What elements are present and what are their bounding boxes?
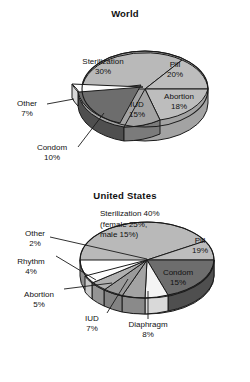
us-label-diaphragm: Diaphragm 8% xyxy=(114,320,182,339)
world-label-condom: Condom 10% xyxy=(26,143,78,162)
world-label-iud-name: IUD xyxy=(130,100,144,109)
us-label-rhythm-name: Rhythm xyxy=(17,257,45,266)
world-label-other-name: Other xyxy=(17,99,37,108)
world-label-pill: Pill 20% xyxy=(155,60,195,79)
world-label-abortion-name: Abortion xyxy=(164,92,194,101)
us-label-pill-name: Pill xyxy=(195,236,206,245)
world-label-other-value: 7% xyxy=(21,109,33,118)
us-label-iud-value: 7% xyxy=(86,324,98,333)
united-states-pie-chart: United States xyxy=(0,185,250,382)
us-label-other-value: 2% xyxy=(29,239,41,248)
world-label-abortion: Abortion 18% xyxy=(152,92,206,111)
world-label-other: Other 7% xyxy=(6,99,48,118)
us-label-abortion-value: 5% xyxy=(33,300,45,309)
world-pie-graphic xyxy=(0,0,250,191)
world-pie-chart: World xyxy=(0,0,250,191)
us-label-condom-value: 15% xyxy=(170,278,186,287)
us-label-other: Other 2% xyxy=(14,229,56,248)
us-label-iud: IUD 7% xyxy=(78,314,106,333)
world-label-iud-value: 15% xyxy=(129,110,145,119)
world-label-sterilization-value: 30% xyxy=(95,67,111,76)
world-label-pill-value: 20% xyxy=(167,70,183,79)
world-label-abortion-value: 18% xyxy=(171,102,187,111)
us-label-rhythm: Rhythm 4% xyxy=(5,257,57,276)
leader-line-other xyxy=(47,99,74,104)
us-label-condom: Condom 15% xyxy=(152,268,204,287)
us-label-sterilization-female: (female 25%, xyxy=(100,220,147,229)
us-label-other-name: Other xyxy=(25,229,45,238)
us-label-rhythm-value: 4% xyxy=(25,267,37,276)
us-label-pill: Pill 19% xyxy=(182,236,218,255)
world-label-iud: IUD 15% xyxy=(118,100,156,119)
us-label-diaphragm-value: 8% xyxy=(142,330,154,339)
us-label-abortion: Abortion 5% xyxy=(13,290,65,309)
us-label-diaphragm-name: Diaphragm xyxy=(128,320,167,329)
us-label-pill-value: 19% xyxy=(192,246,208,255)
world-label-pill-name: Pill xyxy=(170,60,181,69)
us-label-condom-name: Condom xyxy=(163,268,193,277)
world-label-condom-name: Condom xyxy=(37,143,67,152)
us-label-sterilization-total: Sterilization 40% xyxy=(100,209,160,218)
us-label-abortion-name: Abortion xyxy=(24,290,54,299)
us-label-iud-name: IUD xyxy=(85,314,99,323)
us-label-sterilization-male: male 15%) xyxy=(100,230,138,239)
world-label-sterilization-name: Sterilization xyxy=(82,57,123,66)
world-label-condom-value: 10% xyxy=(44,153,60,162)
world-label-sterilization: Sterilization 30% xyxy=(68,57,138,76)
